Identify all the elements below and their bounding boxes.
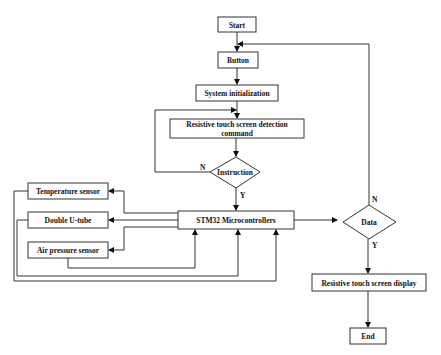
double-utube-node: Double U-tube [28, 212, 108, 228]
air-pressure-sensor-node: Air pressure sensor [28, 242, 108, 258]
arrow-stm32-temperature [109, 191, 178, 213]
detection-command-label-line2: command [221, 129, 253, 138]
air-pressure-sensor-label: Air pressure sensor [37, 246, 100, 255]
touch-screen-display-node: Resistive touch screen display [312, 274, 426, 291]
arrow-stm32-air [109, 227, 178, 250]
system-init-node: System initialization [196, 85, 278, 101]
end-label: End [361, 332, 375, 341]
detection-command-node: Resistive touch screen detection command [170, 119, 304, 138]
touch-screen-display-label: Resistive touch screen display [321, 279, 416, 288]
instruction-no-label: N [200, 163, 206, 172]
instruction-label: Instruction [217, 168, 254, 177]
stm32-node: STM32 Microcontrollers [178, 211, 294, 229]
instruction-decision: Instruction [210, 157, 260, 188]
flowchart-canvas: Start Button System initialization Resis… [0, 0, 441, 355]
data-decision: Data [343, 205, 396, 239]
button-label: Button [227, 56, 250, 65]
data-label: Data [361, 218, 377, 227]
instruction-yes-label: Y [240, 191, 246, 200]
temperature-sensor-node: Temperature sensor [28, 183, 108, 199]
data-yes-label: Y [372, 241, 378, 250]
double-utube-label: Double U-tube [45, 216, 93, 225]
stm32-label: STM32 Microcontrollers [196, 216, 276, 225]
button-node: Button [218, 52, 258, 68]
data-no-label: N [372, 195, 378, 204]
end-node: End [350, 328, 386, 344]
temperature-sensor-label: Temperature sensor [36, 187, 101, 196]
start-label: Start [229, 21, 246, 30]
start-node: Start [218, 17, 256, 32]
system-init-label: System initialization [204, 89, 270, 98]
